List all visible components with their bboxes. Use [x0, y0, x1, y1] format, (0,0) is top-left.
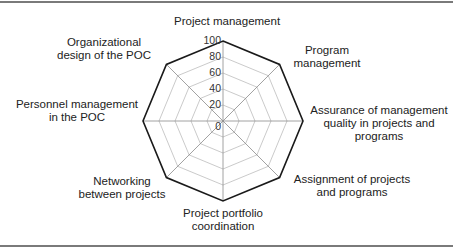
label-line: Personnel management	[12, 98, 142, 111]
label-line: between projects	[72, 188, 172, 201]
label-line: Assignment of projects	[292, 173, 412, 186]
label-line: Project management	[174, 15, 274, 28]
label-personnel-management: Personnel management in the POC	[12, 98, 142, 124]
label-line: Networking	[72, 175, 172, 188]
label-line: coordination	[173, 220, 273, 233]
tick-0: 0	[215, 120, 221, 132]
label-line: in the POC	[12, 111, 142, 124]
label-project-management: Project management	[174, 15, 274, 28]
label-line: Assurance of management	[306, 104, 452, 117]
label-line: design of the POC	[55, 49, 153, 62]
label-line: management	[285, 57, 369, 70]
label-line: quality in projects and	[306, 117, 452, 130]
tick-100: 100	[203, 34, 221, 46]
label-line: Organizational	[55, 36, 153, 49]
label-line: Project portfolio	[173, 207, 273, 220]
label-organizational-design: Organizational design of the POC	[55, 36, 153, 62]
label-networking-between-projects: Networking between projects	[72, 175, 172, 201]
label-program-management: Program management	[285, 44, 369, 70]
tick-60: 60	[209, 66, 221, 78]
label-project-portfolio-coordination: Project portfolio coordination	[173, 207, 273, 233]
label-line: and programs	[292, 186, 412, 199]
label-line: Program	[285, 44, 369, 57]
tick-40: 40	[209, 82, 221, 94]
tick-20: 20	[209, 98, 221, 110]
label-assignment-of-projects: Assignment of projects and programs	[292, 173, 412, 199]
label-assurance-of-management-quality: Assurance of management quality in proje…	[306, 104, 452, 143]
label-line: programs	[306, 130, 452, 143]
tick-80: 80	[209, 50, 221, 62]
